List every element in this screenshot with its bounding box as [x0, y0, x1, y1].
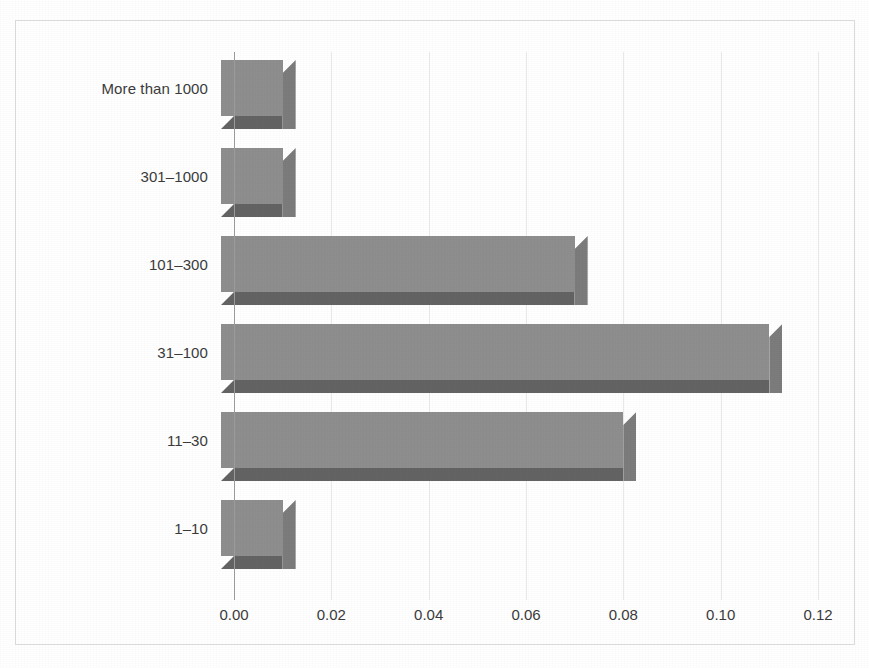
- x-axis-tick-label: 0.12: [803, 606, 832, 623]
- bar-right-side-face: [769, 324, 782, 393]
- bar: [221, 236, 575, 292]
- y-axis-category-label: 1–10: [38, 520, 208, 537]
- plot-area: More than 1000301–1000101–30031–10011–30…: [0, 0, 869, 668]
- bar-front-face: [221, 324, 769, 380]
- y-axis-category-label: 11–30: [38, 432, 208, 449]
- y-axis-category-label: More than 1000: [38, 80, 208, 97]
- bar-bottom-shadow-face: [221, 556, 283, 569]
- y-axis-category-label: 31–100: [38, 344, 208, 361]
- bar-bottom-shadow-face: [221, 292, 575, 305]
- zero-axis-line: [234, 52, 235, 600]
- bar: [221, 324, 769, 380]
- bar-front-face: [221, 236, 575, 292]
- bar-bottom-shadow-face: [221, 116, 283, 129]
- bar-chart-figure: More than 1000301–1000101–30031–10011–30…: [0, 0, 869, 668]
- x-axis-tick-label: 0.00: [219, 606, 248, 623]
- bar: [221, 148, 283, 204]
- x-axis-tick-label: 0.02: [317, 606, 346, 623]
- bar-front-face: [221, 500, 283, 556]
- bar-bottom-shadow-face: [221, 468, 623, 481]
- bar-front-face: [221, 60, 283, 116]
- y-axis-category-label: 301–1000: [38, 168, 208, 185]
- x-axis-tick-label: 0.04: [414, 606, 443, 623]
- bar: [221, 412, 623, 468]
- y-axis-category-labels: More than 1000301–1000101–30031–10011–30…: [38, 0, 208, 668]
- bar: [221, 500, 283, 556]
- gridline: [818, 52, 819, 600]
- bar-front-face: [221, 412, 623, 468]
- bar-right-side-face: [283, 60, 296, 129]
- x-axis-tick-label: 0.10: [706, 606, 735, 623]
- bar-front-face: [221, 148, 283, 204]
- bar-right-side-face: [283, 148, 296, 217]
- x-axis-tick-label: 0.08: [609, 606, 638, 623]
- bar: [221, 60, 283, 116]
- bar-right-side-face: [283, 500, 296, 569]
- x-axis-tick-label: 0.06: [511, 606, 540, 623]
- y-axis-category-label: 101–300: [38, 256, 208, 273]
- bar-bottom-shadow-face: [221, 204, 283, 217]
- bar-right-side-face: [575, 236, 588, 305]
- bar-right-side-face: [623, 412, 636, 481]
- bar-bottom-shadow-face: [221, 380, 769, 393]
